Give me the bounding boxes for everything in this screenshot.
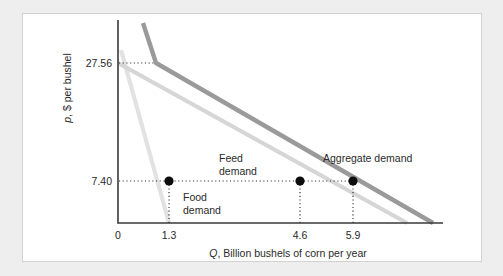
feed-demand-label-line2: demand xyxy=(219,165,257,177)
xtick-label-13: 1.3 xyxy=(162,229,177,241)
x-axis-title: Q, Billion bushels of corn per year xyxy=(209,247,367,259)
x-axis-title-variable: Q xyxy=(209,247,217,259)
xtick-label-59: 5.9 xyxy=(346,229,361,241)
ytick-label-2756: 27.56 xyxy=(86,57,112,69)
xtick-label-0: 0 xyxy=(115,229,121,241)
demand-curve-chart: 27.56 7.40 0 1.3 4.6 5.9 Feed demand Agg… xyxy=(23,14,481,261)
chart-axes xyxy=(118,20,443,223)
food-demand-point xyxy=(164,176,173,185)
y-axis-title-rest: , $ per bushel xyxy=(61,53,73,117)
feed-demand-point xyxy=(295,176,304,185)
xtick-label-46: 4.6 xyxy=(293,229,308,241)
x-axis-title-rest: , Billion bushels of corn per year xyxy=(217,247,367,259)
food-demand-label-line2: demand xyxy=(183,204,221,216)
aggregate-demand-label: Aggregate demand xyxy=(323,152,412,164)
chart-card: 27.56 7.40 0 1.3 4.6 5.9 Feed demand Agg… xyxy=(22,13,482,262)
y-axis-title: p, $ per bushel xyxy=(61,53,73,123)
aggregate-demand-point xyxy=(348,176,357,185)
food-demand-label-line1: Food xyxy=(183,191,207,203)
ytick-label-740: 7.40 xyxy=(92,175,113,187)
feed-demand-label-line1: Feed xyxy=(219,152,243,164)
